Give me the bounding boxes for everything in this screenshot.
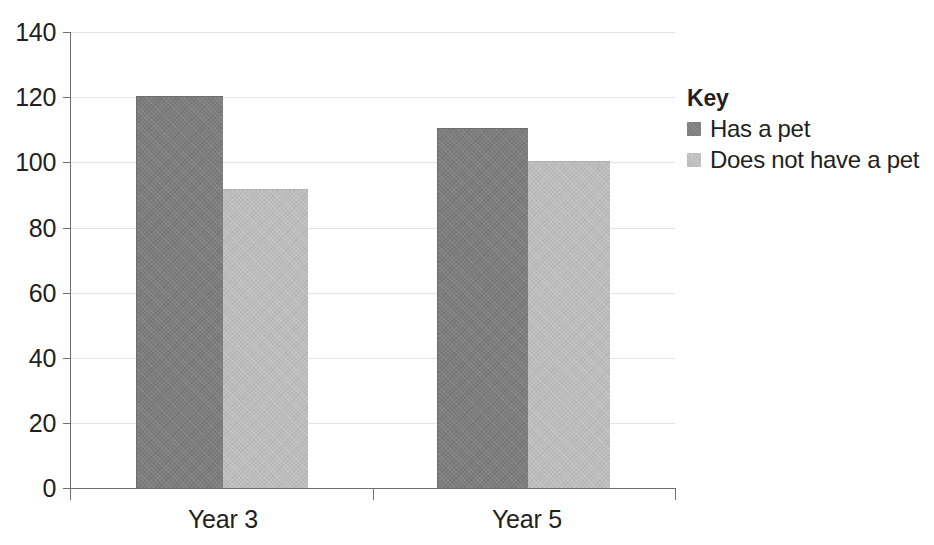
legend: Key Has a pet Does not have a pet — [687, 85, 927, 175]
y-tick-label-40: 40 — [4, 346, 56, 371]
gridline-140 — [70, 32, 675, 33]
plot-area — [70, 32, 675, 488]
y-tick-100 — [63, 162, 70, 163]
x-tick-label-year-5: Year 5 — [432, 505, 622, 533]
legend-label-has-a-pet: Has a pet — [710, 115, 810, 142]
x-tick-right — [675, 488, 676, 500]
y-tick-label-80: 80 — [4, 216, 56, 241]
y-tick-20 — [63, 423, 70, 424]
x-tick-left — [70, 488, 71, 500]
y-tick-label-60: 60 — [4, 281, 56, 306]
y-tick-40 — [63, 358, 70, 359]
y-tick-0 — [63, 488, 70, 489]
bar-year5-does-not-have-a-pet — [528, 161, 610, 488]
y-tick-label-120: 120 — [4, 85, 56, 110]
dark-swatch-icon — [687, 122, 701, 136]
x-tick-origin — [70, 476, 71, 488]
light-swatch-icon — [687, 153, 701, 167]
legend-title: Key — [687, 85, 927, 111]
x-tick-middle — [373, 488, 374, 500]
bar-year5-has-a-pet — [437, 128, 528, 488]
y-tick-label-140: 140 — [4, 20, 56, 45]
y-tick-60 — [63, 293, 70, 294]
y-tick-80 — [63, 228, 70, 229]
y-tick-label-100: 100 — [4, 150, 56, 175]
y-tick-label-0: 0 — [4, 476, 56, 501]
legend-label-does-not-have-a-pet: Does not have a pet — [710, 146, 919, 173]
bar-chart: 140 120 100 80 60 40 20 0 Year 3 Year 5 … — [0, 0, 934, 545]
legend-item-does-not-have-a-pet: Does not have a pet — [687, 144, 927, 175]
bar-year3-does-not-have-a-pet — [223, 189, 308, 488]
legend-item-has-a-pet: Has a pet — [687, 113, 927, 144]
y-tick-label-20: 20 — [4, 411, 56, 436]
y-tick-120 — [63, 97, 70, 98]
bar-year3-has-a-pet — [136, 96, 223, 488]
y-axis-line — [70, 32, 71, 489]
y-tick-140 — [63, 32, 70, 33]
x-tick-label-year-3: Year 3 — [128, 505, 318, 533]
